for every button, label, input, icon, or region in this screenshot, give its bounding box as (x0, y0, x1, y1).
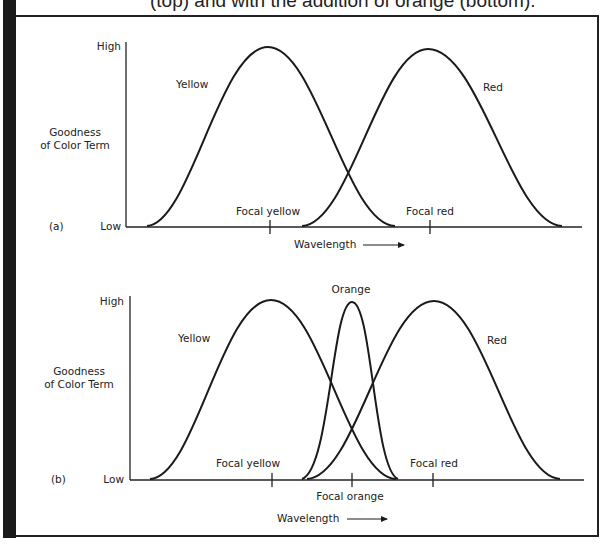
red-curve-label: Red (487, 334, 507, 346)
panel-b: High Low Goodness of Color Term (b) Yell… (44, 283, 584, 524)
red-curve (307, 301, 560, 479)
red-curve-label: Red (483, 81, 503, 93)
yellow-curve (147, 47, 395, 226)
focal-red-label: Focal red (410, 457, 458, 469)
x-axis-label: Wavelength (277, 512, 339, 524)
focal-red-label: Focal red (406, 205, 454, 217)
orange-curve (302, 302, 398, 479)
y-axis-label-line2: of Color Term (40, 139, 110, 151)
focal-yellow-label: Focal yellow (216, 457, 280, 469)
y-axis-label-line2: of Color Term (44, 378, 114, 390)
yellow-curve-label: Yellow (177, 332, 211, 344)
y-axis-label-line1: Goodness (49, 126, 101, 138)
y-tick-high: High (100, 295, 124, 307)
y-tick-low: Low (103, 473, 124, 485)
yellow-curve (150, 300, 396, 479)
figure-plots: High Low Goodness of Color Term (a) Yell… (0, 0, 613, 551)
orange-curve-label: Orange (332, 283, 371, 295)
panel-label-a: (a) (49, 220, 64, 232)
y-tick-low: Low (100, 220, 121, 232)
panel-a: High Low Goodness of Color Term (a) Yell… (40, 40, 582, 250)
y-axis-label-line1: Goodness (53, 365, 105, 377)
red-curve (302, 49, 562, 226)
panel-label-b: (b) (51, 473, 66, 485)
focal-orange-label: Focal orange (316, 490, 384, 502)
y-tick-high: High (97, 40, 121, 52)
focal-yellow-label: Focal yellow (236, 205, 300, 217)
x-axis-label: Wavelength (294, 238, 356, 250)
yellow-curve-label: Yellow (175, 78, 209, 90)
